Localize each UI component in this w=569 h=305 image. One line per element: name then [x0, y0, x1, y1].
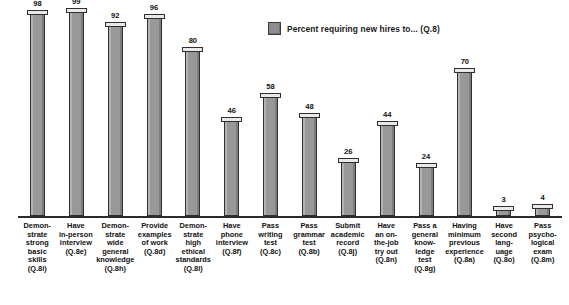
category-label: Demon-stratestrongbasicskills(Q.8i) — [18, 222, 57, 274]
bar[interactable]: 70 — [457, 72, 472, 216]
bar-body — [380, 125, 395, 216]
bar-body — [108, 26, 123, 216]
bar[interactable]: 24 — [419, 167, 434, 216]
category-label-line: (Q.8n) — [368, 256, 405, 265]
bar-value-label: 4 — [540, 193, 544, 202]
bar[interactable]: 58 — [263, 97, 278, 216]
bar-slot: 26 — [329, 10, 368, 216]
bar-slot: 4 — [523, 10, 562, 216]
bar-value-label: 58 — [266, 82, 274, 91]
bar[interactable]: 80 — [185, 51, 200, 216]
bar-value-label: 80 — [189, 36, 197, 45]
category-label-line: (Q.8l) — [175, 265, 212, 274]
category-label-line: (Q.8f) — [214, 248, 251, 257]
category-label-line: (Q.8j) — [329, 248, 366, 257]
bar[interactable]: 48 — [302, 117, 317, 216]
category-label: Havesecondlang-uage(Q.8o) — [485, 222, 524, 265]
bar-body — [147, 18, 162, 216]
bar-top-face — [260, 93, 281, 98]
bar-slot: 46 — [212, 10, 251, 216]
bar-value-label: 92 — [111, 11, 119, 20]
bar-chart: Percent requiring new hires to... (Q.8) … — [0, 0, 569, 305]
category-label: Pass ageneralknow-ledgetest(Q.8g) — [406, 222, 445, 274]
bar-body — [263, 97, 278, 216]
bar-body — [185, 51, 200, 216]
bar-value-label: 48 — [305, 102, 313, 111]
category-label-line: (Q.8a) — [445, 256, 484, 265]
category-label: Passwritingtest(Q.8c) — [251, 222, 290, 256]
category-label: Havean on-the-jobtry out(Q.8n) — [367, 222, 406, 265]
category-label: Havephoneinterview(Q.8f) — [213, 222, 252, 256]
bar-top-face — [105, 22, 126, 27]
category-label: Passpsycho-logicalexam(Q.8m) — [523, 222, 562, 265]
category-label-line: (Q.8h) — [96, 265, 134, 274]
bar-series: 98999296804658482644247034 — [18, 10, 562, 216]
category-label-line: (Q.8i) — [19, 265, 56, 274]
bar-value-label: 24 — [422, 152, 430, 161]
bar-slot: 48 — [290, 10, 329, 216]
bar-top-face — [27, 10, 48, 15]
axis-baseline — [18, 216, 562, 218]
bar[interactable]: 26 — [341, 162, 356, 216]
category-label: Submitacademicrecord(Q.8j) — [328, 222, 367, 256]
bar-value-label: 44 — [383, 110, 391, 119]
bar-slot: 92 — [96, 10, 135, 216]
bar-slot: 44 — [368, 10, 407, 216]
bar-top-face — [299, 113, 320, 118]
category-label-line: (Q.8e) — [58, 248, 95, 257]
category-label: Passgrammartest(Q.8b) — [290, 222, 329, 256]
bar-top-face — [377, 121, 398, 126]
category-label-line: (Q.8m) — [524, 256, 561, 265]
bar-top-face — [338, 158, 359, 163]
bar-value-label: 70 — [461, 57, 469, 66]
bar[interactable]: 99 — [69, 12, 84, 216]
category-label: Havein-personinterview(Q.8e) — [57, 222, 96, 256]
bar-slot: 99 — [57, 10, 96, 216]
bar-top-face — [144, 14, 165, 19]
bar-slot: 3 — [484, 10, 523, 216]
bar-body — [69, 12, 84, 216]
category-label-line: (Q.8c) — [252, 248, 289, 257]
bar[interactable]: 4 — [535, 208, 550, 216]
bar[interactable]: 46 — [224, 121, 239, 216]
bar[interactable]: 44 — [380, 125, 395, 216]
category-label-line: (Q.8d) — [136, 248, 173, 257]
bar-top-face — [416, 163, 437, 168]
category-axis-labels: Demon-stratestrongbasicskills(Q.8i)Havei… — [18, 222, 562, 305]
plot-area: 98999296804658482644247034 — [18, 10, 562, 218]
bar-body — [341, 162, 356, 216]
bar-slot: 80 — [173, 10, 212, 216]
bar-slot: 24 — [407, 10, 446, 216]
category-label: Demon-stratehighethicalstandards(Q.8l) — [174, 222, 213, 274]
bar-body — [224, 121, 239, 216]
bar-slot: 58 — [251, 10, 290, 216]
bar-top-face — [182, 47, 203, 52]
bar-value-label: 99 — [72, 0, 80, 6]
bar-slot: 70 — [445, 10, 484, 216]
bar-top-face — [66, 8, 87, 13]
bar-body — [535, 208, 550, 216]
bar-top-face — [454, 68, 475, 73]
bar-slot: 98 — [18, 10, 57, 216]
bar-body — [302, 117, 317, 216]
category-label: Havingminimumpreviousexperience(Q.8a) — [444, 222, 485, 265]
bar-body — [30, 14, 45, 216]
bar-value-label: 96 — [150, 3, 158, 12]
bar-value-label: 46 — [227, 106, 235, 115]
category-label-line: (Q.8o) — [486, 256, 523, 265]
bar-top-face — [532, 204, 553, 209]
bar[interactable]: 96 — [147, 18, 162, 216]
bar-body — [457, 72, 472, 216]
bar-value-label: 3 — [502, 195, 506, 204]
category-label: Demon-stratewidegeneralknowledge(Q.8h) — [95, 222, 135, 274]
bar-value-label: 98 — [33, 0, 41, 8]
bar-top-face — [493, 206, 514, 211]
bar-slot: 96 — [135, 10, 174, 216]
bar-top-face — [221, 117, 242, 122]
category-label: Provideexamplesof work(Q.8d) — [135, 222, 174, 256]
bar-body — [419, 167, 434, 216]
bar[interactable]: 92 — [108, 26, 123, 216]
bar-value-label: 26 — [344, 147, 352, 156]
bar[interactable]: 98 — [30, 14, 45, 216]
category-label-line: (Q.8b) — [291, 248, 328, 257]
